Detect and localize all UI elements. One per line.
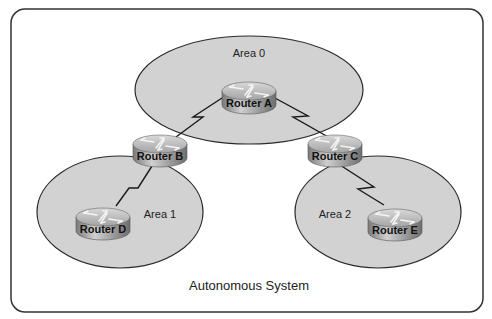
- router-c-label: Router C: [312, 150, 359, 162]
- router-e-label: Router E: [372, 224, 418, 236]
- router-e: Router E: [368, 209, 422, 241]
- area2-label: Area 2: [319, 208, 351, 220]
- router-a-label: Router A: [226, 97, 272, 109]
- router-d: Router D: [76, 208, 130, 240]
- router-c: Router C: [308, 135, 362, 167]
- area1-label: Area 1: [144, 208, 176, 220]
- router-d-label: Router D: [80, 223, 127, 235]
- router-b: Router B: [133, 135, 187, 167]
- autonomous-system-label: Autonomous System: [189, 278, 309, 293]
- ospf-areas-diagram: Area 0Area 1Area 2 Router ARouter BRoute…: [0, 0, 492, 319]
- router-a: Router A: [222, 82, 276, 114]
- area0-label: Area 0: [233, 47, 265, 59]
- router-b-label: Router B: [137, 150, 184, 162]
